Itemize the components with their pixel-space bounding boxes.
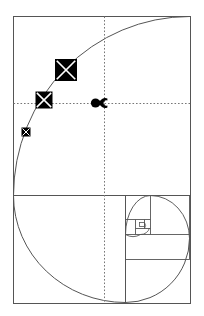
golden-spiral-figure: Golden Ratio Spiral Diagram Fibonacci sp… (0, 0, 204, 316)
marker-small-crossed-square[interactable] (22, 128, 31, 137)
marker-large-crossed-square[interactable] (55, 59, 77, 81)
figure-background (0, 0, 204, 316)
marker-blob-bridge (98, 101, 103, 106)
marker-medium-crossed-square[interactable] (36, 92, 53, 109)
spiral-diagram-canvas (0, 0, 204, 316)
